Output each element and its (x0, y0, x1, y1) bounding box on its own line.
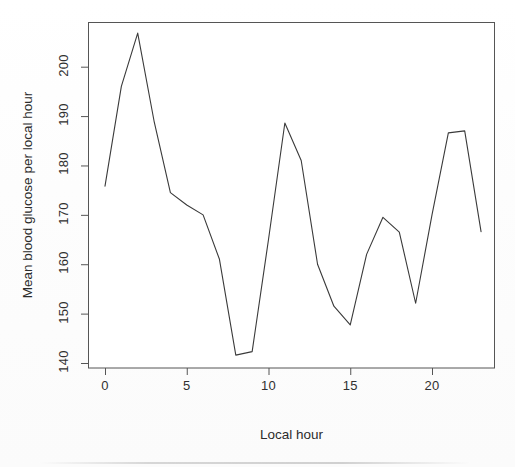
y-tick-label: 170 (56, 196, 71, 230)
x-tick-label: 5 (167, 378, 207, 393)
plot-frame (89, 23, 495, 369)
plot-area: 140150160170180190200 05101520 Mean bloo… (0, 0, 515, 467)
y-tick-label: 190 (56, 98, 71, 132)
x-tick-label: 10 (249, 378, 289, 393)
x-axis-title: Local hour (88, 427, 495, 442)
chart-figure: 140150160170180190200 05101520 Mean bloo… (0, 0, 515, 467)
x-axis-ticks (106, 368, 433, 375)
scan-artifact-line (40, 462, 470, 464)
y-tick-label: 150 (56, 295, 71, 329)
line-chart-svg (0, 0, 515, 467)
y-tick-label: 180 (56, 147, 71, 181)
x-tick-label: 0 (85, 378, 125, 393)
y-tick-label: 140 (56, 345, 71, 379)
y-tick-label: 200 (56, 48, 71, 82)
y-axis-title: Mean blood glucose per local hour (20, 22, 40, 368)
x-tick-label: 15 (330, 378, 370, 393)
y-tick-label: 160 (56, 246, 71, 280)
y-axis-ticks (81, 67, 88, 363)
x-tick-label: 20 (412, 378, 452, 393)
